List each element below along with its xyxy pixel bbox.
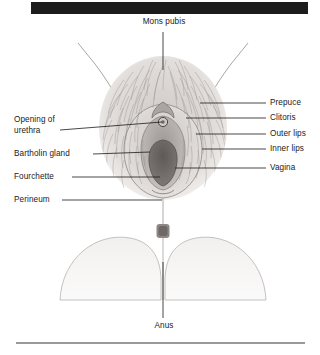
anatomy-diagram-page: Mons pubis Opening of urethra Bartholin … [0,0,320,355]
label-opening-of-urethra-line1: Opening of [14,115,55,124]
label-clitoris: Clitoris [270,113,296,124]
label-opening-of-urethra-line2: urethra [14,126,41,135]
label-perineum: Perineum [14,195,50,206]
label-vagina: Vagina [270,163,295,174]
label-prepuce: Prepuce [270,98,301,109]
anus-shape [157,224,170,238]
label-fourchette: Fourchette [14,172,54,183]
footer-rule [16,342,305,344]
label-inner-lips: Inner lips [270,144,304,155]
label-anus: Anus [133,321,195,332]
label-opening-of-urethra: Opening of urethra [14,115,84,136]
label-outer-lips: Outer lips [270,129,306,140]
label-bartholin-gland: Bartholin gland [14,149,70,160]
label-mons-pubis: Mons pubis [133,17,195,28]
